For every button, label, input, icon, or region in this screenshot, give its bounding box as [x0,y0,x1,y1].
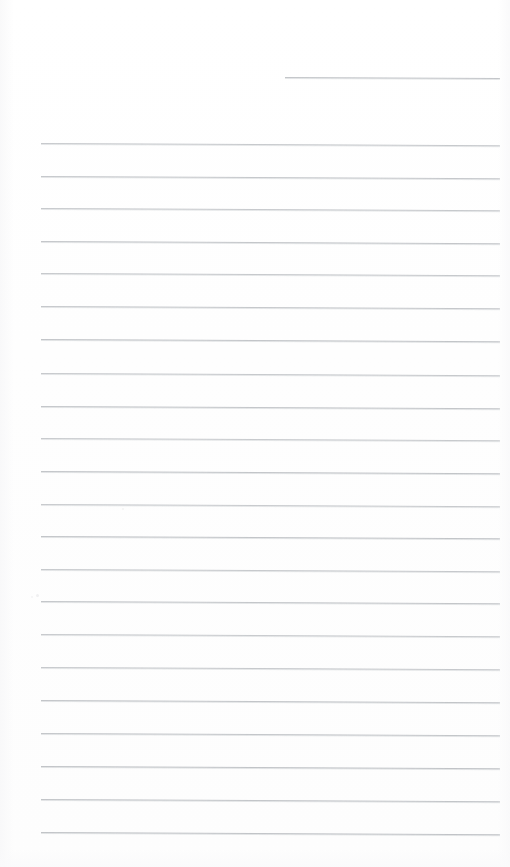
ruled-line [41,406,500,409]
page-edge-shade-left [0,0,14,867]
ruled-line [41,634,500,637]
paper-surface [0,0,510,867]
ruled-line [41,373,500,376]
scan-speck [122,508,124,510]
ruled-line [41,471,500,474]
ruled-line-partial [285,77,500,79]
ruled-line [41,241,500,244]
ruled-line [41,601,500,604]
ruled-line [41,504,500,507]
scanned-page [0,0,510,867]
page-edge-shade-bottom [0,849,510,867]
ruled-line [41,569,500,572]
ruled-line [41,667,500,670]
ruled-line [41,438,500,441]
ruled-line [41,733,500,736]
ruled-line [41,832,500,835]
ruled-line [41,799,500,802]
ruled-line [41,536,500,539]
ruled-line [41,700,500,703]
scan-speck [36,594,39,597]
ruled-line [41,176,500,179]
ruled-line [41,208,500,211]
ruled-line [41,273,500,276]
ruled-line [41,143,500,146]
ruled-line [41,306,500,309]
ruled-line [41,766,500,769]
scan-speck [31,596,33,598]
ruled-line [41,339,500,342]
